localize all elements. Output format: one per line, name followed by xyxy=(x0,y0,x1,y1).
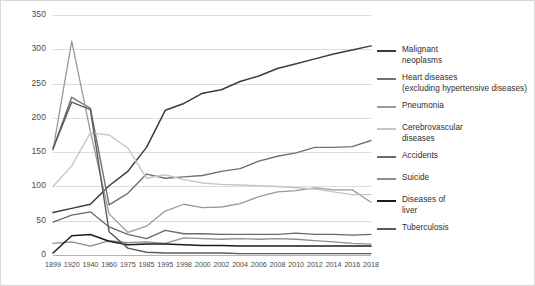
legend-item-suicide[interactable]: Suicide xyxy=(377,173,429,184)
legend-item-label: Cerebrovascular diseases xyxy=(402,123,463,144)
y-tick-label-200: 200 xyxy=(20,113,46,122)
legend-item-heart-diseases[interactable]: Heart diseases (excluding hypertensive d… xyxy=(377,73,527,94)
mortality-rate-line-chart: 050100150200250300350 189919201940196019… xyxy=(1,1,535,286)
legend-item-diseases-of[interactable]: Diseases of liver xyxy=(377,195,445,216)
legend-line-swatch xyxy=(377,128,396,130)
legend-item-label: Suicide xyxy=(402,173,429,184)
y-tick-label-0: 0 xyxy=(20,250,46,259)
y-tick-label-300: 300 xyxy=(20,44,46,53)
series-line-malignant-neoplasms xyxy=(53,46,371,213)
legend-item-label: Pneumonia xyxy=(402,101,444,112)
series-line-tuberculosis xyxy=(53,102,371,254)
legend-item-cerebrovascular[interactable]: Cerebrovascular diseases xyxy=(377,123,463,144)
legend-item-label: Malignant neoplasms xyxy=(402,45,442,66)
legend-line-swatch xyxy=(377,156,396,158)
legend-line-swatch xyxy=(377,106,396,108)
legend-item-malignant[interactable]: Malignant neoplasms xyxy=(377,45,442,66)
y-tick-label-250: 250 xyxy=(20,79,46,88)
legend-item-label: Heart diseases (excluding hypertensive d… xyxy=(402,73,527,94)
legend-line-swatch xyxy=(377,50,396,52)
legend-line-swatch xyxy=(377,228,396,230)
legend-item-pneumonia[interactable]: Pneumonia xyxy=(377,101,444,112)
y-tick-label-100: 100 xyxy=(20,181,46,190)
y-tick-label-50: 50 xyxy=(20,216,46,225)
legend-item-tuberculosis[interactable]: Tuberculosis xyxy=(377,223,449,234)
legend-item-label: Accidents xyxy=(402,151,438,162)
legend-item-label: Tuberculosis xyxy=(402,223,449,234)
legend-line-swatch xyxy=(377,178,396,180)
legend-line-swatch xyxy=(377,78,396,80)
y-tick-label-150: 150 xyxy=(20,147,46,156)
legend-item-label: Diseases of liver xyxy=(402,195,445,216)
y-tick-label-350: 350 xyxy=(20,10,46,19)
chart-screenshot: 050100150200250300350 189919201940196019… xyxy=(0,0,535,286)
x-tick-label-2018: 2018 xyxy=(358,261,384,269)
legend-item-accidents[interactable]: Accidents xyxy=(377,151,438,162)
legend-line-swatch xyxy=(377,200,396,202)
series-line-accidents xyxy=(53,212,371,239)
series-line-pneumonia xyxy=(53,41,371,232)
